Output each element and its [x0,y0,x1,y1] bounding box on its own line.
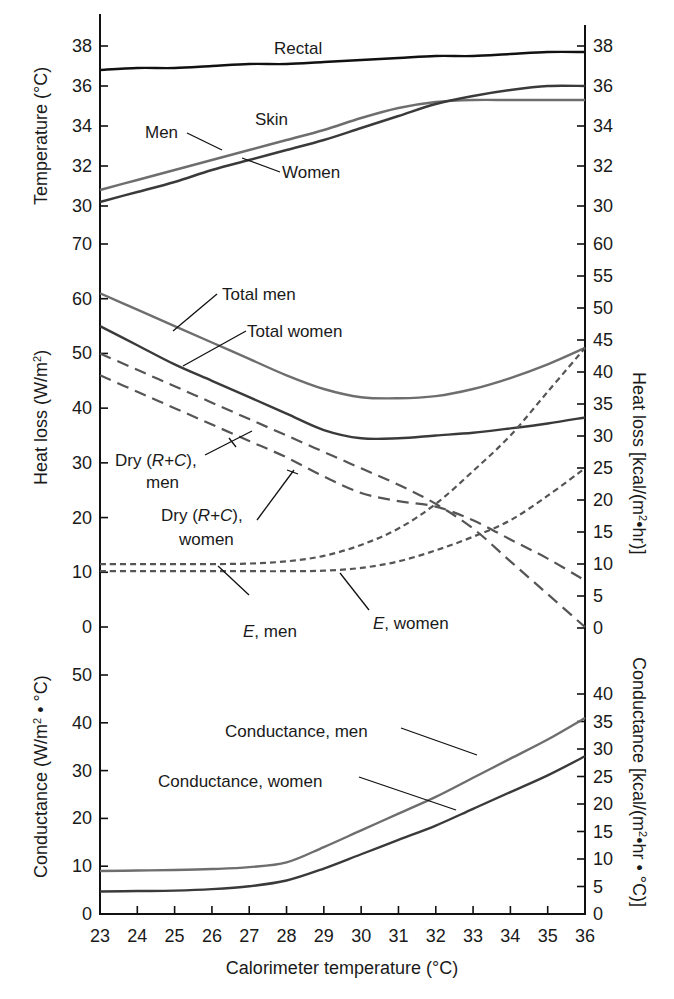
leader-e-women [340,573,369,610]
leader-women [242,158,280,172]
y-tick-label-right: 5 [593,877,603,897]
label-total-men: Total men [222,285,296,304]
y-tick-label-left: 40 [72,398,92,418]
y-tick-label-right: 50 [593,298,613,318]
y-tick-label-right: 0 [593,618,603,638]
x-label: Calorimeter temperature (°C) [226,958,458,978]
leader-total-women [183,331,246,366]
y-tick-label-right: 10 [593,554,613,574]
x-tick-label: 32 [426,926,446,946]
x-tick-label: 33 [463,926,483,946]
y-tick-label-left: 50 [72,343,92,363]
y-tick-label-left: 0 [82,904,92,924]
y-label-temperature: Temperature (°C) [31,67,51,205]
y-tick-label-left: 50 [72,665,92,685]
y-tick-label-left: 10 [72,856,92,876]
y-label-heat-loss: Heat loss (W/m2) [31,350,51,485]
y-tick-label-right: 38 [593,36,613,56]
label-dry-men-2: men [146,473,179,492]
x-tick-label: 28 [277,926,297,946]
series-rectal [100,52,585,70]
series-total-women [100,326,585,439]
label-conductance-women: Conductance, women [158,772,322,791]
y-tick-label-left: 32 [72,156,92,176]
y-tick-label-left: 30 [72,761,92,781]
label-men: Men [145,123,178,142]
y-tick-label-right: 36 [593,76,613,96]
y-tick-label-left: 60 [72,289,92,309]
y-tick-label-right: 5 [593,586,603,606]
leader-cond-men [401,728,477,755]
y-tick-label-right: 25 [593,767,613,787]
y-tick-label-right: 0 [593,904,603,924]
series-skin-women [100,86,585,202]
y-tick-label-right: 32 [593,156,613,176]
label-women: Women [282,163,340,182]
series-total-men [100,293,585,398]
y-tick-label-right: 34 [593,116,613,136]
label-e-men: E, men [243,622,297,641]
y-tick-label-right: 35 [593,394,613,414]
x-tick-label: 34 [500,926,520,946]
y-label-conductance: Conductance (W/m2 • °C) [31,675,51,878]
thermoregulation-chart: 3032343638303234363801020304050607005101… [0,0,674,999]
y-tick-label-right: 15 [593,522,613,542]
x-tick-label: 35 [538,926,558,946]
x-tick-label: 26 [202,926,222,946]
y-tick-label-right: 45 [593,330,613,350]
x-tick-label: 31 [388,926,408,946]
label-dry-women-2: women [178,530,234,549]
y-tick-label-left: 40 [72,713,92,733]
y-tick-label-left: 34 [72,116,92,136]
y-label-conductance-right: Conductance [kcal/(m2•hr • °C)] [629,657,649,907]
y-tick-label-right: 40 [593,362,613,382]
y-tick-label-left: 30 [72,453,92,473]
y-tick-label-left: 20 [72,508,92,528]
leader-dry-women-tick [287,470,298,474]
label-dry-men: Dry (R+C), [115,451,197,470]
axis-titles: Temperature (°C) Heat loss (W/m2) Conduc… [31,67,649,978]
y-tick-label-right: 30 [593,196,613,216]
label-e-women: E, women [373,614,449,633]
label-dry-women: Dry (R+C), [161,506,243,525]
leader-men [187,133,222,150]
leader-dry-women [257,470,294,520]
leader-dry-men [205,431,252,455]
label-skin: Skin [255,110,288,129]
leader-lines [173,133,477,810]
x-tick-label: 25 [165,926,185,946]
y-tick-label-right: 20 [593,794,613,814]
x-tick-label: 30 [351,926,371,946]
y-tick-label-right: 60 [593,234,613,254]
label-total-women: Total women [247,322,342,341]
y-tick-label-left: 36 [72,76,92,96]
y-tick-label-right: 10 [593,849,613,869]
x-tick-label: 36 [575,926,595,946]
y-tick-label-left: 10 [72,562,92,582]
y-tick-label-right: 30 [593,426,613,446]
y-tick-label-right: 25 [593,458,613,478]
y-tick-label-left: 30 [72,196,92,216]
y-tick-label-right: 20 [593,490,613,510]
label-rectal: Rectal [274,39,322,58]
y-tick-label-left: 38 [72,36,92,56]
label-conductance-men: Conductance, men [225,722,368,741]
x-tick-label: 23 [90,926,110,946]
x-tick-label: 29 [314,926,334,946]
y-tick-label-right: 40 [593,684,613,704]
y-tick-label-right: 15 [593,822,613,842]
y-tick-label-left: 20 [72,808,92,828]
series-lines [100,52,585,892]
y-tick-label-left: 70 [72,234,92,254]
y-label-heat-loss-right: Heat loss [kcal/(m2•hr)] [629,372,649,554]
y-tick-label-left: 0 [82,617,92,637]
y-tick-label-right: 55 [593,266,613,286]
y-tick-label-right: 35 [593,712,613,732]
x-tick-label: 27 [239,926,259,946]
x-tick-label: 24 [127,926,147,946]
y-tick-label-right: 30 [593,739,613,759]
series-skin-men [100,100,585,190]
leader-total-men [173,294,217,331]
